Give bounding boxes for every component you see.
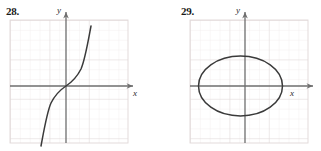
figure-29: 29.: [160, 0, 321, 151]
figure-28: 28.: [0, 0, 161, 151]
graph-29-plot: [160, 0, 321, 151]
x-axis-label-29: x: [290, 89, 294, 98]
y-axis-label-29: y: [236, 6, 240, 15]
figure-page: 28.: [0, 0, 321, 151]
y-axis-label-28: y: [57, 6, 61, 15]
graph-28-plot: [0, 0, 161, 151]
grid-29: [190, 20, 308, 143]
x-axis-label-28: x: [133, 89, 137, 98]
grid-28: [10, 20, 128, 143]
